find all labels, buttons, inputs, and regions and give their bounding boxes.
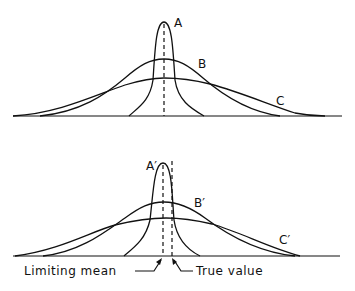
limiting-mean-annotation: Limiting mean [24, 258, 162, 278]
top-panel: A B C [13, 16, 342, 116]
true-value-label: True value [195, 264, 263, 278]
limiting-mean-label: Limiting mean [24, 264, 117, 278]
true-value-annotation: True value [172, 258, 263, 278]
curve-a-prime [124, 163, 200, 256]
label-c: C [276, 94, 284, 108]
curve-b-prime [43, 202, 295, 256]
label-a: A [174, 16, 183, 30]
curve-b [40, 59, 280, 116]
curve-c-prime [15, 218, 300, 256]
label-b: B [198, 57, 206, 71]
distribution-diagram: A B C A′ B′ C′ Limiting mean True value [0, 0, 355, 291]
label-c-prime: C′ [279, 233, 290, 247]
bottom-panel: A′ B′ C′ Limiting mean True value [13, 159, 340, 278]
label-a-prime: A′ [146, 159, 157, 173]
limiting-mean-arrowhead-icon [156, 258, 162, 265]
label-b-prime: B′ [194, 196, 205, 210]
true-value-arrow [174, 260, 193, 271]
